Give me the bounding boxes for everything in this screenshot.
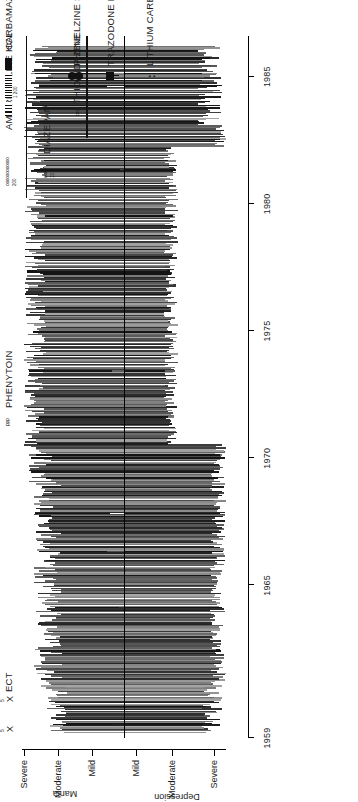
episode-bar [124,376,166,377]
episode-bar [56,694,124,695]
episode-bar [124,471,219,472]
mania-group-label: Mania [53,789,78,799]
episode-bar [124,341,176,343]
episode-bar [34,324,124,325]
episode-bar [124,397,164,398]
episode-bar [41,116,124,117]
episode-bar [30,346,124,347]
episode-bar [124,367,175,368]
episode-bar [124,425,169,426]
episode-bar [124,383,177,384]
episode-bar [45,176,124,178]
episode-bar [124,247,172,249]
episode-bar [31,457,124,458]
episode-bar [35,379,124,380]
episode-bar [57,695,124,697]
episode-bar [124,541,213,543]
episode-bar [25,178,124,179]
episode-bar [124,604,217,605]
episode-bar [46,326,124,327]
episode-bar [124,456,221,457]
episode-bar [39,450,124,451]
episode-bar [124,572,220,573]
episode-bar [47,608,124,609]
episode-bar [51,704,124,705]
episode-bar [124,708,202,709]
episode-bar [28,380,124,381]
episode-bar [124,105,220,106]
episode-bar [41,300,124,302]
episode-bar [124,334,176,335]
episode-bar [51,536,124,537]
episode-bar [61,711,124,712]
episode-bar [124,307,171,309]
lithium-label: LITHIUM CARBONATE [144,0,155,66]
episode-bar [124,681,215,683]
episode-bar [124,320,168,321]
x-tick-1975 [248,330,254,331]
episode-bar [124,220,175,221]
episode-bar [124,115,208,116]
episode-bar [41,327,124,328]
x-tick-label-1965: 1965 [262,575,272,596]
episode-bar [124,562,217,563]
episode-bar [44,277,124,278]
episode-bar [26,278,124,279]
episode-bar [31,376,124,377]
episode-bar [44,523,124,524]
episode-bar [46,560,124,561]
x-tick-label-1970: 1970 [262,448,272,469]
episode-bar [45,215,124,217]
episode-bar [45,489,124,491]
episode-bar [124,113,206,114]
episode-bar [31,236,124,238]
episode-bar [124,351,167,352]
episode-bar [124,579,212,580]
episode-bar [124,330,168,331]
episode-bar [30,312,124,313]
episode-bar [52,530,124,531]
drug-rule-lithium [26,36,27,198]
episode-bar [124,608,224,609]
episode-bar [124,673,226,674]
ect-marker-1: X [6,726,15,732]
amitriptyline-swatch: oooooooooooo [4,157,11,186]
episode-bar [25,410,124,411]
episode-bar [124,502,217,504]
episode-bar [41,204,124,205]
episode-bar [45,547,124,548]
episode-bar [124,210,178,211]
episode-bar [44,491,124,492]
episode-bar [124,628,220,629]
episode-bar [124,302,177,303]
episode-bar [124,394,174,395]
episode-bar [124,632,213,633]
episode-bar [124,467,223,468]
episode-bar [124,435,171,436]
episode-bar [39,551,108,553]
diazepam-swatch: oooo [42,168,49,178]
episode-bar [44,474,124,475]
episode-bar [124,257,177,258]
episode-bar [124,141,224,143]
episode-bar [124,576,216,577]
episode-bar [124,405,166,406]
episode-bar [29,286,124,288]
x-axis-line [248,36,249,738]
episode-bar [124,190,176,192]
episode-bar [124,158,164,159]
episode-bar [124,92,222,93]
episode-bar [45,604,124,605]
episode-bar [31,235,124,236]
episode-bar [124,505,214,506]
episode-bar [124,560,225,561]
episode-bar [124,652,215,653]
episode-bar [124,431,176,432]
episode-bar [124,121,197,123]
episode-bar [124,390,165,391]
episode-bar [36,423,124,425]
episode-bar [51,717,124,719]
episode-bar [124,91,213,92]
episode-bar [43,372,124,373]
episode-bar [56,579,124,580]
